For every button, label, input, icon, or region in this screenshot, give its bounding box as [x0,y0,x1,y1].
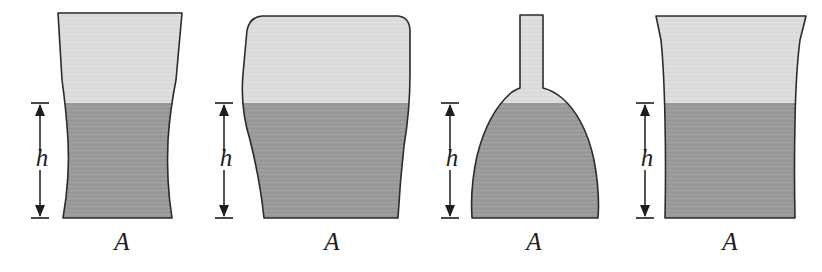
vessel-4-depth-label: h [641,144,654,171]
vessel-2-arrowhead-up-icon [219,104,229,116]
vessel-3-arrowhead-up-icon [445,104,455,116]
vessel-2-arrowhead-down-icon [219,205,229,217]
vessel-3-arrowhead-down-icon [445,205,455,217]
vessel-2-area-label: A [322,228,340,255]
vessel-1-area-label: A [112,228,130,255]
figure-canvas: hAhAhAhA [0,0,822,272]
vessel-1-arrowhead-up-icon [35,104,45,116]
vessel-1-arrowhead-down-icon [35,205,45,217]
vessel-1-depth-label: h [36,144,49,171]
vessel-4-arrowhead-down-icon [640,205,650,217]
vessel-4-arrowhead-up-icon [640,104,650,116]
vessel-2-depth-label: h [220,144,233,171]
vessel-3-area-label: A [524,228,542,255]
vessel-4-area-label: A [720,228,738,255]
vessel-3-depth-label: h [446,144,459,171]
hydrostatic-paradox-figure: hAhAhAhA [0,0,822,272]
